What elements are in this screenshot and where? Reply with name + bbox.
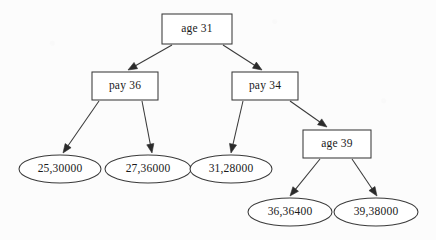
node-label: age 39 — [321, 137, 353, 150]
tree-canvas: age 31pay 36pay 34age 3925,3000027,36000… — [0, 0, 436, 240]
tree-edge — [223, 45, 262, 70]
tree-edge — [290, 159, 320, 196]
edge-arrowhead — [252, 62, 262, 70]
tree-leaf-leaf3[interactable]: 31,28000 — [190, 155, 272, 183]
leaf-label: 36,36400 — [268, 205, 313, 218]
tree-leaf-leaf5[interactable]: 39,38000 — [334, 198, 418, 226]
edge-line — [134, 45, 172, 67]
tree-node-pay34[interactable]: pay 34 — [232, 72, 298, 100]
tree-edge — [128, 45, 172, 70]
edge-line — [290, 101, 321, 123]
tree-edge — [230, 101, 243, 153]
edge-line — [67, 101, 99, 147]
edge-line — [352, 159, 373, 190]
edge-arrowhead — [147, 143, 154, 153]
edge-line — [294, 159, 320, 191]
node-label: pay 36 — [109, 79, 141, 92]
leaf-label: 25,30000 — [38, 162, 83, 175]
tree-edge — [63, 101, 99, 153]
tree-node-root[interactable]: age 31 — [162, 14, 232, 44]
edge-line — [142, 101, 151, 146]
tree-leaf-leaf4[interactable]: 36,36400 — [248, 198, 332, 226]
nodes-group: age 31pay 36pay 34age 3925,3000027,36000… — [19, 14, 418, 226]
tree-node-age39[interactable]: age 39 — [303, 130, 371, 158]
edge-arrowhead — [128, 62, 138, 70]
edge-arrowhead — [369, 187, 377, 196]
decision-tree-diagram: age 31pay 36pay 34age 3925,3000027,36000… — [0, 0, 436, 240]
tree-edge — [352, 159, 377, 196]
leaf-label: 27,36000 — [126, 162, 171, 175]
tree-node-pay36[interactable]: pay 36 — [92, 72, 158, 100]
edge-line — [233, 101, 243, 146]
edge-arrowhead — [63, 144, 71, 153]
edge-arrowhead — [290, 187, 298, 196]
leaf-label: 39,38000 — [354, 205, 399, 218]
tree-leaf-leaf2[interactable]: 27,36000 — [105, 155, 191, 183]
node-label: pay 34 — [249, 79, 281, 92]
tree-edge — [142, 101, 154, 153]
edge-arrowhead — [318, 119, 327, 127]
tree-leaf-leaf1[interactable]: 25,30000 — [19, 155, 101, 183]
edge-arrowhead — [230, 143, 237, 153]
node-label: age 31 — [181, 22, 213, 35]
leaf-label: 31,28000 — [209, 162, 254, 175]
tree-edge — [290, 101, 327, 127]
edge-line — [223, 45, 256, 66]
